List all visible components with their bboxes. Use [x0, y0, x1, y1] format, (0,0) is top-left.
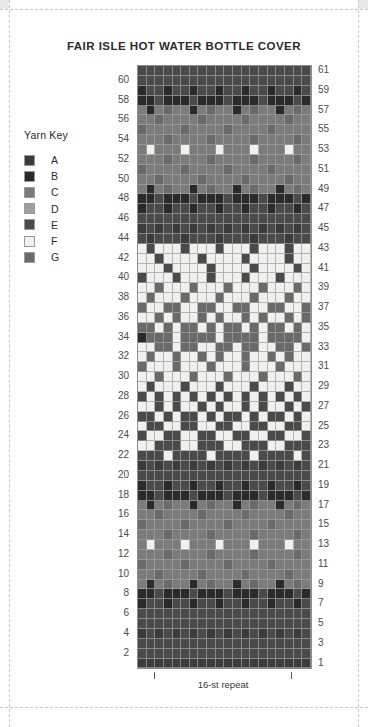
stitch-cell: [268, 293, 277, 303]
stitch-cell: [216, 422, 225, 432]
stitch-cell: [233, 412, 242, 422]
stitch-cell: [164, 530, 173, 540]
stitch-cell: [259, 224, 268, 234]
stitch-cell: [276, 412, 285, 422]
stitch-cell: [285, 501, 294, 511]
stitch-cell: [164, 609, 173, 619]
row-number-right: 3: [318, 638, 362, 648]
stitch-cell: [181, 589, 190, 599]
stitch-cell: [198, 629, 207, 639]
stitch-cell: [155, 372, 164, 382]
stitch-cell: [198, 204, 207, 214]
stitch-cell: [302, 441, 311, 451]
stitch-cell: [302, 629, 311, 639]
stitch-cell: [242, 530, 251, 540]
stitch-cell: [198, 135, 207, 145]
stitch-cell: [276, 451, 285, 461]
stitch-cell: [198, 461, 207, 471]
stitch-cell: [268, 254, 277, 264]
stitch-cell: [138, 491, 147, 501]
stitch-cell: [224, 639, 233, 649]
stitch-cell: [224, 609, 233, 619]
repeat-bracket: 16-st repeat: [154, 672, 292, 694]
stitch-cell: [164, 481, 173, 491]
stitch-cell: [250, 343, 259, 353]
stitch-cell: [207, 382, 216, 392]
stitch-cell: [285, 86, 294, 96]
stitch-cell: [259, 471, 268, 481]
stitch-cell: [294, 86, 303, 96]
stitch-cell: [259, 293, 268, 303]
stitch-cell: [181, 560, 190, 570]
stitch-cell: [250, 412, 259, 422]
stitch-cell: [233, 481, 242, 491]
stitch-cell: [181, 125, 190, 135]
stitch-cell: [259, 599, 268, 609]
stitch-cell: [294, 372, 303, 382]
stitch-cell: [173, 550, 182, 560]
stitch-cell: [190, 402, 199, 412]
stitch-cell: [302, 214, 311, 224]
stitch-cell: [259, 76, 268, 86]
stitch-cell: [259, 540, 268, 550]
row-number-right: 17: [318, 500, 362, 510]
stitch-cell: [155, 540, 164, 550]
stitch-cell: [147, 185, 156, 195]
stitch-cell: [173, 372, 182, 382]
stitch-cell: [302, 125, 311, 135]
stitch-cell: [276, 471, 285, 481]
stitch-cell: [190, 244, 199, 254]
stitch-cell: [216, 165, 225, 175]
stitch-cell: [147, 135, 156, 145]
stitch-cell: [164, 264, 173, 274]
stitch-cell: [242, 244, 251, 254]
stitch-cell: [216, 530, 225, 540]
stitch-cell: [250, 194, 259, 204]
stitch-cell: [233, 649, 242, 659]
stitch-cell: [147, 86, 156, 96]
row-number-left: 12: [0, 549, 129, 559]
stitch-cell: [207, 362, 216, 372]
stitch-cell: [207, 283, 216, 293]
stitch-cell: [285, 649, 294, 659]
stitch-cell: [155, 501, 164, 511]
stitch-cell: [190, 214, 199, 224]
row-number-right: 55: [318, 124, 362, 134]
stitch-cell: [216, 224, 225, 234]
stitch-cell: [302, 392, 311, 402]
stitch-cell: [250, 323, 259, 333]
row-numbers-right: 6160595857565554535251504948474645444342…: [318, 65, 362, 667]
stitch-cell: [276, 86, 285, 96]
stitch-cell: [198, 609, 207, 619]
stitch-cell: [181, 392, 190, 402]
stitch-cell: [138, 323, 147, 333]
stitch-cell: [302, 86, 311, 96]
stitch-cell: [207, 76, 216, 86]
stitch-cell: [242, 352, 251, 362]
stitch-cell: [302, 481, 311, 491]
stitch-cell: [233, 244, 242, 254]
stitch-cell: [285, 194, 294, 204]
stitch-cell: [250, 362, 259, 372]
stitch-cell: [302, 402, 311, 412]
stitch-cell: [224, 649, 233, 659]
stitch-cell: [190, 86, 199, 96]
stitch-cell: [276, 303, 285, 313]
stitch-cell: [259, 491, 268, 501]
stitch-cell: [164, 451, 173, 461]
stitch-cell: [198, 254, 207, 264]
stitch-cell: [207, 214, 216, 224]
stitch-cell: [285, 619, 294, 629]
stitch-cell: [173, 76, 182, 86]
stitch-cell: [224, 530, 233, 540]
stitch-cell: [198, 264, 207, 274]
stitch-cell: [164, 491, 173, 501]
stitch-cell: [250, 471, 259, 481]
stitch-cell: [294, 659, 303, 669]
stitch-cell: [285, 254, 294, 264]
stitch-cell: [302, 471, 311, 481]
stitch-cell: [268, 86, 277, 96]
stitch-cell: [294, 185, 303, 195]
stitch-cell: [250, 402, 259, 412]
stitch-cell: [294, 165, 303, 175]
